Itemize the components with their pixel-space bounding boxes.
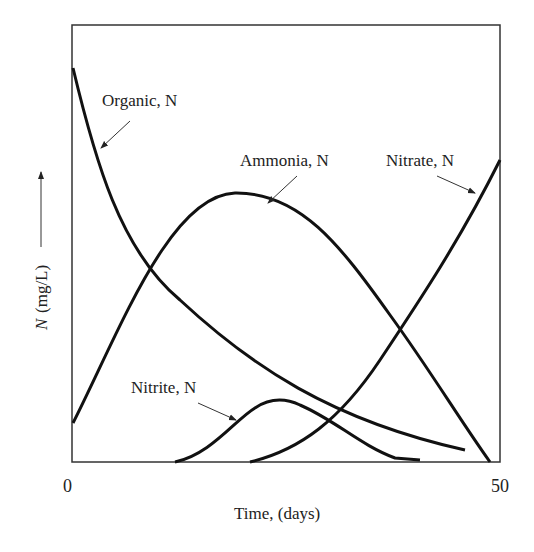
- nitrogen-chart: Organic, N Ammonia, N Nitrate, N Nitrite…: [0, 0, 534, 552]
- x-axis-label: Time, (days): [234, 504, 320, 523]
- label-nitrate-n: Nitrate, N: [386, 151, 454, 170]
- label-ammonia-n: Ammonia, N: [240, 151, 329, 170]
- arrow-nitrate-icon: [437, 176, 475, 193]
- arrow-nitrite-icon: [198, 403, 236, 420]
- y-axis-label: N (mg/L): [32, 265, 51, 331]
- label-organic-n: Organic, N: [102, 91, 177, 110]
- xtick-50: 50: [491, 476, 509, 496]
- arrow-organic-icon: [101, 121, 130, 148]
- y-axis-unit: (mg/L): [32, 265, 51, 313]
- arrow-ammonia-icon: [268, 176, 297, 203]
- label-nitrite-n: Nitrite, N: [131, 378, 196, 397]
- xtick-0: 0: [63, 476, 72, 496]
- y-axis-var: N: [32, 317, 51, 331]
- series-ammonia-n: [73, 193, 490, 462]
